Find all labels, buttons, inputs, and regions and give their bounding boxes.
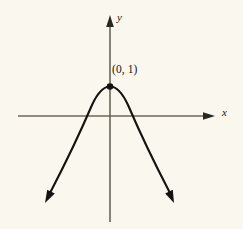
x-axis-label: x (222, 107, 227, 118)
x-axis (18, 112, 215, 120)
parabola-left-arrowhead (45, 190, 55, 203)
y-axis-label: y (117, 12, 122, 23)
vertex-point-label: (0, 1) (112, 64, 138, 76)
figure-canvas: y x (0, 1) (0, 0, 243, 229)
y-axis-arrowhead (106, 15, 114, 27)
parabola-right-arrowhead (165, 190, 174, 203)
y-axis (106, 15, 114, 222)
parabola-diagram (0, 0, 243, 229)
vertex-dot-marker (107, 83, 114, 90)
x-axis-arrowhead (203, 112, 215, 120)
